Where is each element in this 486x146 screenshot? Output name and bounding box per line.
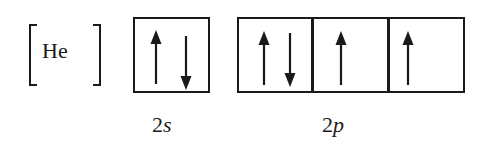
core-element-label: He bbox=[42, 38, 68, 64]
subshell-number: 2 bbox=[152, 112, 163, 137]
spin-up-arrow-icon bbox=[258, 31, 270, 87]
spin-up-arrow-icon bbox=[150, 30, 162, 86]
subshell-letter: p bbox=[333, 112, 344, 137]
left-bracket bbox=[29, 24, 37, 86]
subshell-label-2p: 2p bbox=[322, 112, 344, 138]
subshell-label-2s: 2s bbox=[152, 112, 172, 138]
right-bracket bbox=[93, 24, 101, 86]
orbital-divider bbox=[311, 17, 314, 93]
subshell-letter: s bbox=[163, 112, 172, 137]
spin-down-arrow-icon bbox=[284, 33, 296, 89]
orbital-divider bbox=[387, 17, 390, 93]
orbital-box-2s bbox=[133, 17, 210, 93]
spin-up-arrow-icon bbox=[335, 31, 347, 87]
spin-up-arrow-icon bbox=[402, 31, 414, 87]
subshell-number: 2 bbox=[322, 112, 333, 137]
orbital-group-2p bbox=[237, 17, 465, 93]
spin-down-arrow-icon bbox=[180, 36, 192, 92]
